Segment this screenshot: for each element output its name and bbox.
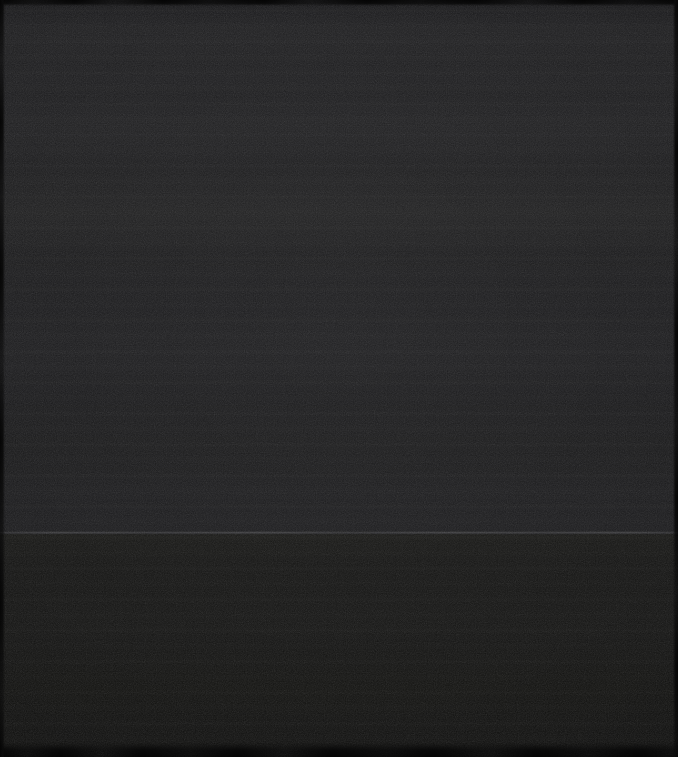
lower-colour-field xyxy=(0,534,678,757)
edge-left xyxy=(0,0,5,757)
edge-right xyxy=(673,0,678,757)
edge-bottom xyxy=(0,743,678,757)
artwork-canvas xyxy=(0,0,678,757)
horizon-line xyxy=(0,531,678,535)
edge-top xyxy=(0,0,678,6)
upper-colour-field xyxy=(0,0,678,534)
